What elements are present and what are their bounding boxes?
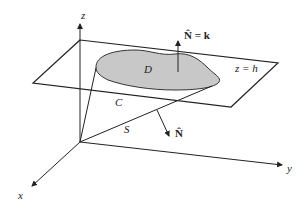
x-axis-label: x [18, 190, 23, 201]
normal-side-arrow [157, 110, 169, 136]
region-label: D [144, 64, 152, 75]
y-axis-label: y [287, 163, 292, 174]
normal-k-label: N̂ = k [184, 30, 210, 41]
normal-side-label: N̂ [175, 128, 183, 139]
z-axis-label: z [81, 10, 85, 21]
surface-edge-right [80, 86, 212, 142]
x-axis [32, 142, 80, 186]
curve-label: C [115, 97, 122, 108]
y-axis [80, 142, 282, 165]
surface-label: S [124, 124, 130, 135]
plane-label: z = h [235, 63, 258, 74]
surface-edge-left [80, 68, 96, 142]
region-d [96, 50, 220, 90]
surface-diagram [0, 0, 308, 211]
